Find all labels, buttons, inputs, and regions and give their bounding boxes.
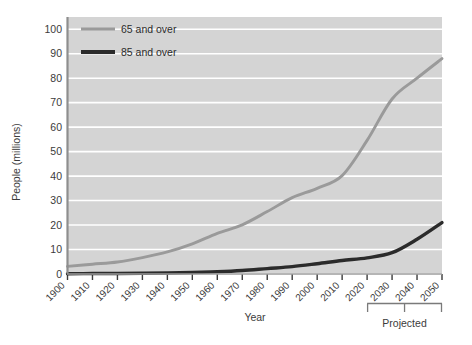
y-tick-label: 20 <box>50 219 62 231</box>
y-tick-label: 80 <box>50 72 62 84</box>
y-axis-title: People (millions) <box>10 123 22 201</box>
y-tick-label: 100 <box>44 23 62 35</box>
projected-label: Projected <box>382 317 427 329</box>
chart-figure: 0102030405060708090100 19001910192019301… <box>0 0 472 345</box>
y-tick-label: 90 <box>50 47 62 59</box>
chart-svg: 0102030405060708090100 19001910192019301… <box>0 0 472 345</box>
y-tick-label: 60 <box>50 121 62 133</box>
y-tick-label: 70 <box>50 96 62 108</box>
y-tick-label: 10 <box>50 243 62 255</box>
y-tick-label: 50 <box>50 145 62 157</box>
x-axis-title: Year <box>244 311 266 323</box>
y-tick-label: 40 <box>50 170 62 182</box>
legend-label-65-and-over: 65 and over <box>121 23 177 35</box>
y-tick-label: 0 <box>56 268 62 280</box>
y-tick-label: 30 <box>50 194 62 206</box>
legend-label-85-and-over: 85 and over <box>121 46 177 58</box>
